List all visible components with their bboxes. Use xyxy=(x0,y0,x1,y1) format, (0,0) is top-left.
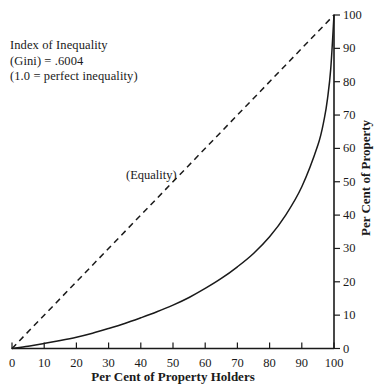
equality-curve-label: (Equality) xyxy=(126,168,177,183)
gini-annotation: Index of Inequality (Gini) = .6004 (1.0 … xyxy=(10,38,138,85)
x-tick-label-80: 80 xyxy=(263,356,276,371)
annotation-line-3: (1.0 = perfect inequality) xyxy=(10,69,138,85)
y-tick-label-0: 0 xyxy=(343,341,349,356)
x-tick-label-0: 0 xyxy=(9,356,15,371)
y-tick-label-60: 60 xyxy=(343,141,356,156)
y-tick-label-30: 30 xyxy=(343,241,356,256)
x-tick-label-100: 100 xyxy=(325,356,344,371)
y-tick-label-90: 90 xyxy=(343,41,356,56)
y-tick-label-20: 20 xyxy=(343,274,356,289)
y-tick-label-10: 10 xyxy=(343,308,356,323)
y-axis-title: Per Cent of Property xyxy=(358,120,374,236)
y-tick-label-100: 100 xyxy=(343,8,362,23)
y-tick-label-70: 70 xyxy=(343,108,356,123)
y-axis-ticks xyxy=(334,15,340,349)
y-tick-label-80: 80 xyxy=(343,74,356,89)
x-tick-label-20: 20 xyxy=(70,356,83,371)
annotation-line-1: Index of Inequality xyxy=(10,38,138,54)
y-tick-label-40: 40 xyxy=(343,208,356,223)
x-tick-label-90: 90 xyxy=(296,356,309,371)
x-axis-ticks xyxy=(12,343,334,349)
y-tick-label-50: 50 xyxy=(343,174,356,189)
x-tick-label-10: 10 xyxy=(38,356,51,371)
lorenz-curve-chart: Index of Inequality (Gini) = .6004 (1.0 … xyxy=(0,0,380,386)
x-axis-title: Per Cent of Property Holders xyxy=(91,369,254,385)
annotation-line-2: (Gini) = .6004 xyxy=(10,54,138,70)
